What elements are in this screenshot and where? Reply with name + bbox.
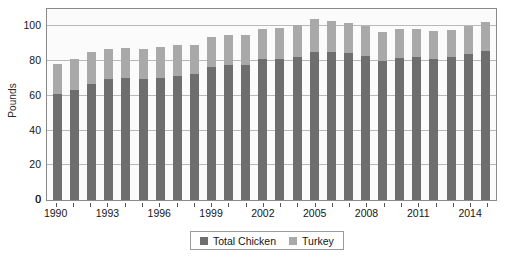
bar-segment-turkey bbox=[327, 21, 336, 51]
x-tick-mark bbox=[228, 203, 229, 207]
x-tick-mark bbox=[453, 203, 454, 207]
bar-segment-total-chicken bbox=[173, 76, 182, 200]
bar-column bbox=[258, 9, 267, 200]
x-tick-mark bbox=[487, 203, 488, 207]
legend-item-turkey: Turkey bbox=[289, 235, 334, 247]
bar-segment-turkey bbox=[241, 35, 250, 65]
x-tick-label: 2002 bbox=[251, 207, 274, 219]
bar-segment-turkey bbox=[53, 64, 62, 94]
bar-column bbox=[173, 9, 182, 200]
x-tick-mark bbox=[349, 203, 350, 207]
bar-column bbox=[275, 9, 284, 200]
y-tick-label: 40 bbox=[29, 124, 41, 136]
x-tick-mark bbox=[194, 203, 195, 207]
x-tick-mark bbox=[401, 203, 402, 207]
bar-column bbox=[207, 9, 216, 200]
y-tick-label: 80 bbox=[29, 54, 41, 66]
plot-area bbox=[46, 8, 497, 201]
chart-container: Pounds 0204060801000 1990199319961999200… bbox=[0, 0, 506, 257]
bar-segment-total-chicken bbox=[156, 78, 165, 200]
bar-segment-total-chicken bbox=[429, 59, 438, 201]
bar-segment-turkey bbox=[87, 52, 96, 83]
bar-column bbox=[378, 9, 387, 200]
bar-segment-turkey bbox=[429, 31, 438, 59]
bar-column bbox=[156, 9, 165, 200]
y-tick-label: 100 bbox=[23, 19, 41, 31]
bar-segment-turkey bbox=[207, 37, 216, 67]
legend-label-total-chicken: Total Chicken bbox=[213, 235, 276, 247]
bar-segment-total-chicken bbox=[190, 74, 199, 200]
bar-segment-total-chicken bbox=[87, 84, 96, 200]
legend-swatch-total-chicken bbox=[200, 237, 208, 245]
bar-segment-turkey bbox=[310, 19, 319, 52]
bar-column bbox=[53, 9, 62, 200]
x-tick-label: 2011 bbox=[407, 207, 430, 219]
bar-column bbox=[190, 9, 199, 200]
bar-segment-turkey bbox=[275, 28, 284, 58]
x-tick-mark bbox=[297, 203, 298, 207]
bar-segment-total-chicken bbox=[224, 65, 233, 200]
bar-segment-turkey bbox=[378, 32, 387, 61]
bar-segment-turkey bbox=[361, 26, 370, 56]
bar-segment-turkey bbox=[173, 45, 182, 75]
bar-segment-turkey bbox=[121, 48, 130, 78]
x-tick-mark bbox=[384, 203, 385, 207]
bar-segment-turkey bbox=[156, 47, 165, 78]
bar-segment-turkey bbox=[293, 25, 302, 57]
x-tick-mark bbox=[436, 203, 437, 207]
x-tick-label: 1996 bbox=[148, 207, 171, 219]
x-axis-ticks: 199019931996199920022005200820112014 bbox=[46, 203, 497, 219]
bar-segment-total-chicken bbox=[464, 54, 473, 200]
x-tick-mark bbox=[142, 203, 143, 207]
bar-segment-total-chicken bbox=[395, 58, 404, 200]
bar-column bbox=[395, 9, 404, 200]
x-tick-mark bbox=[332, 203, 333, 207]
bar-column bbox=[293, 9, 302, 200]
bar-segment-turkey bbox=[139, 49, 148, 79]
bar-column bbox=[87, 9, 96, 200]
bar-column bbox=[224, 9, 233, 200]
bar-column bbox=[361, 9, 370, 200]
bar-column bbox=[70, 9, 79, 200]
bar-series-group bbox=[47, 9, 496, 200]
bar-segment-total-chicken bbox=[378, 61, 387, 200]
x-tick-label: 2008 bbox=[355, 207, 378, 219]
x-tick-mark bbox=[177, 203, 178, 207]
x-tick-label: 1990 bbox=[44, 207, 67, 219]
bar-segment-total-chicken bbox=[361, 56, 370, 200]
bar-column bbox=[139, 9, 148, 200]
bar-segment-turkey bbox=[464, 26, 473, 54]
chart-legend: Total Chicken Turkey bbox=[190, 231, 344, 250]
y-axis-ticks: 0204060801000 bbox=[0, 0, 46, 202]
bar-segment-turkey bbox=[395, 29, 404, 58]
bar-segment-turkey bbox=[258, 29, 267, 59]
bar-column bbox=[327, 9, 336, 200]
bar-segment-total-chicken bbox=[121, 78, 130, 200]
bar-segment-total-chicken bbox=[447, 57, 456, 200]
x-tick-mark bbox=[73, 203, 74, 207]
bar-segment-total-chicken bbox=[293, 57, 302, 200]
bar-segment-total-chicken bbox=[275, 59, 284, 201]
legend-swatch-turkey bbox=[289, 237, 297, 245]
bar-column bbox=[121, 9, 130, 200]
bar-segment-total-chicken bbox=[104, 79, 113, 200]
bar-column bbox=[344, 9, 353, 200]
bar-segment-total-chicken bbox=[241, 65, 250, 200]
x-tick-label: 2014 bbox=[458, 207, 481, 219]
x-tick-label: 1999 bbox=[199, 207, 222, 219]
bar-segment-total-chicken bbox=[344, 53, 353, 200]
x-tick-label: 1993 bbox=[96, 207, 119, 219]
bar-segment-total-chicken bbox=[53, 94, 62, 200]
bar-column bbox=[412, 9, 421, 200]
x-tick-mark bbox=[90, 203, 91, 207]
bar-segment-total-chicken bbox=[207, 67, 216, 200]
legend-item-total-chicken: Total Chicken bbox=[200, 235, 276, 247]
bar-segment-total-chicken bbox=[481, 51, 490, 200]
legend-label-turkey: Turkey bbox=[302, 235, 334, 247]
bar-segment-total-chicken bbox=[139, 79, 148, 200]
bar-segment-total-chicken bbox=[412, 57, 421, 200]
bar-column bbox=[104, 9, 113, 200]
y-tick-label: 0 bbox=[35, 193, 41, 205]
bar-segment-turkey bbox=[104, 49, 113, 79]
bar-segment-turkey bbox=[481, 22, 490, 51]
